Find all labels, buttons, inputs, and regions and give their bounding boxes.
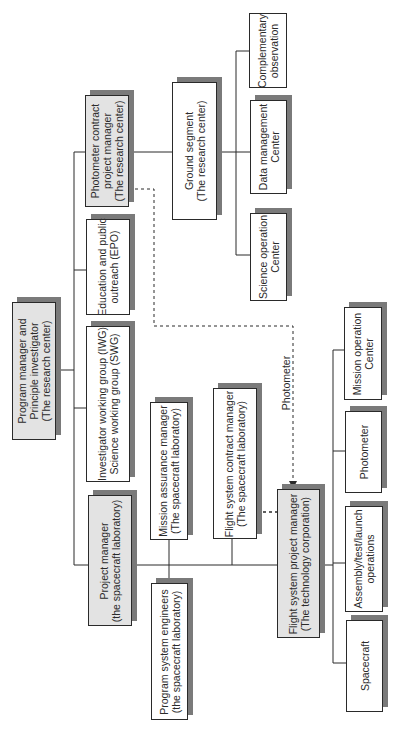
- node-label: Ground segment (The research center): [183, 101, 207, 202]
- edge-label-photometer: Photometer: [280, 356, 292, 410]
- node-label: Flight system project manager (The techn…: [287, 493, 311, 634]
- node-spacecraft[interactable]: Spacecraft: [346, 620, 383, 712]
- node-flight-system-pm[interactable]: Flight system project manager (The techn…: [277, 489, 320, 638]
- node-epo[interactable]: Education and public outreach (EPO): [86, 219, 130, 315]
- node-label: Flight system contract manager (The spac…: [223, 390, 247, 536]
- node-label: Mission operation Center: [351, 312, 375, 394]
- node-ground-segment[interactable]: Ground segment (The research center): [172, 82, 217, 220]
- node-complementary-observation[interactable]: Complementary observation: [249, 13, 287, 88]
- node-label: Data management Center: [257, 104, 281, 190]
- node-project-manager[interactable]: Project manager (the spacecraft laborato…: [88, 495, 132, 626]
- arrowhead-icon: [289, 481, 297, 489]
- node-label: Program manager and Principle investigat…: [16, 318, 52, 423]
- node-label: Photometer contract project manager (The…: [89, 101, 125, 202]
- node-program-system-engineers[interactable]: Program system engineers (the spacecraft…: [151, 583, 188, 720]
- node-mission-assurance-manager[interactable]: Mission assurance manager (The spacecraf…: [150, 402, 188, 540]
- node-label: Mission assurance manager (The spacecraf…: [157, 405, 181, 536]
- node-label: Science operation Center: [257, 215, 281, 299]
- node-flight-system-contract-manager[interactable]: Flight system contract manager (The spac…: [213, 388, 257, 539]
- node-science-operation-center[interactable]: Science operation Center: [250, 213, 287, 301]
- node-program-manager[interactable]: Program manager and Principle investigat…: [12, 302, 56, 440]
- node-photometer-contract-pm[interactable]: Photometer contract project manager (The…: [85, 95, 129, 207]
- node-photometer[interactable]: Photometer: [345, 411, 382, 493]
- node-label: Complementary observation: [256, 13, 280, 87]
- node-label: Spacecraft: [359, 641, 371, 691]
- node-label: Assembly/test/launch operations: [352, 509, 376, 608]
- node-label: Investigator working group (IWG) Science…: [96, 327, 120, 481]
- node-iwg-swg[interactable]: Investigator working group (IWG) Science…: [86, 326, 130, 482]
- node-data-management-center[interactable]: Data management Center: [250, 100, 287, 194]
- node-label: Project manager (the spacecraft laborato…: [98, 499, 122, 622]
- node-mission-operation-center[interactable]: Mission operation Center: [344, 307, 382, 400]
- node-label: Program system engineers (the spacecraft…: [158, 589, 182, 714]
- node-label: Education and public outreach (EPO): [96, 218, 120, 316]
- node-label: Photometer: [358, 425, 370, 479]
- node-assembly-test-launch[interactable]: Assembly/test/launch operations: [345, 506, 383, 612]
